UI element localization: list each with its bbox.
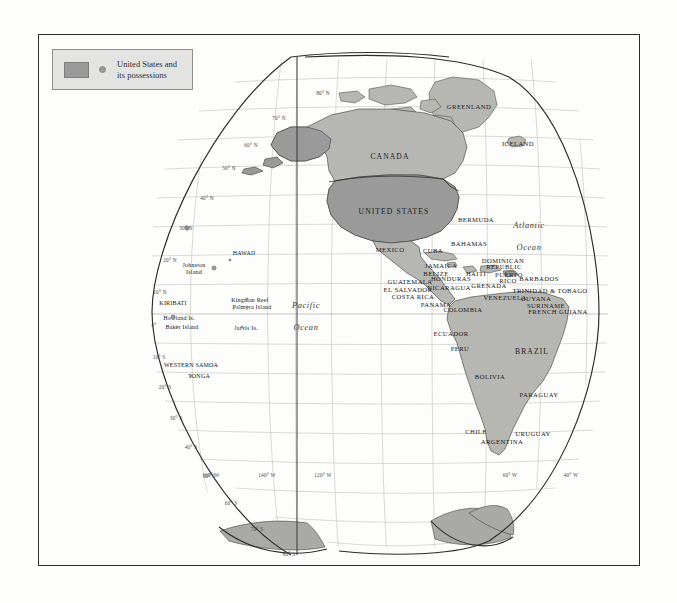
tonga-dot [190,375,193,378]
howland-island-dot [171,315,176,320]
midway-dot [186,228,189,231]
kingman-reef-dot [246,298,249,301]
palmyra-island-dot [246,306,249,309]
map-frame: United States and its possessions CANADA… [38,34,640,566]
baker-island-dot [176,326,179,329]
canada-landmass [307,109,467,181]
hawaii-dot [229,259,232,262]
legend-label-line1: United States and [117,59,177,70]
johnston-island-dot [212,266,217,271]
united-states-fill-swatch [64,62,89,78]
world-map-graphic [39,35,641,567]
legend-label-line2: its possessions [117,70,177,81]
jarvis-island-dot [241,326,244,329]
map-legend: United States and its possessions [52,49,193,90]
legend-label: United States and its possessions [117,59,177,80]
map-page: United States and its possessions CANADA… [0,0,677,603]
possession-dot-swatch [99,66,106,73]
